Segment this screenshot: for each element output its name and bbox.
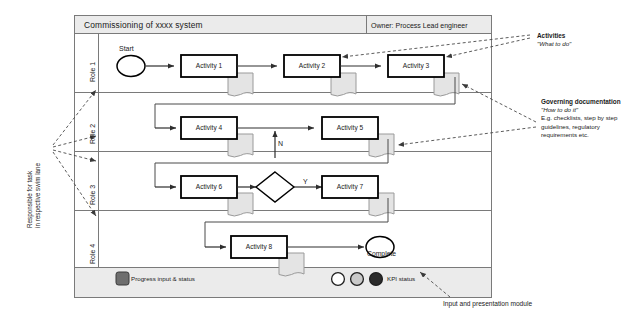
activity-4-label[interactable]: Activity 4 [181,124,237,131]
start-node-label: Start [119,45,134,53]
annotation-governing-documentation: Governing documentation "How to do it" E… [541,98,621,139]
annotation-governing-subtitle: "How to do it" [541,106,621,114]
activity-7-label[interactable]: Activity 7 [322,183,378,190]
annotation-governing-title: Governing documentation [541,98,621,106]
annotation-activities-title: Activities [537,32,571,40]
activity-5-label[interactable]: Activity 5 [322,124,378,131]
lane-label-role-2: Role 2 [89,124,97,144]
kpi-dot-grey [351,273,364,286]
lane-label-role-3: Role 3 [89,185,97,205]
annotation-governing-body-line-2: guidelines, regulatory [541,123,621,131]
lane-label-role-1: Role 1 [89,62,97,82]
legend-kpi-label: KPI status [387,276,415,283]
legend-progress-label: Progress input & status [131,276,195,283]
annotation-activities: Activities "What to do" [537,32,571,48]
owner-label: Owner: Process Lead engineer [371,22,468,30]
branch-label-yes: Y [303,178,308,186]
activity-6-label[interactable]: Activity 6 [181,183,237,190]
activity-1-label[interactable]: Activity 1 [181,62,237,69]
annotation-responsible-line-2: in respective swim lane [34,163,42,228]
kpi-dot-white [332,273,345,286]
annotation-input-presentation-module: Input and presentation module [443,300,532,307]
complete-node-label: Complete [367,250,396,258]
activity-2-label[interactable]: Activity 2 [284,62,340,69]
annotation-activities-subtitle: "What to do" [537,40,571,48]
annotation-responsible-for-task: Responsible for task in respective swim … [26,163,42,228]
annotation-governing-body-line-1: E.g. checklists, step by step [541,114,621,122]
annotation-responsible-line-1: Responsible for task [26,163,34,228]
kpi-dot-dark [370,273,383,286]
activity-3-label[interactable]: Activity 3 [388,62,444,69]
branch-label-no: N [278,140,283,148]
diagram-canvas: Commissioning of xxxx system Owner: Proc… [0,0,641,325]
annotation-governing-body-line-3: requirements etc. [541,131,621,139]
progress-swatch [116,272,129,285]
start-node [117,56,145,77]
activity-8-label[interactable]: Activity 8 [231,243,287,250]
page-title: Commissioning of xxxx system [84,21,203,30]
flowchart-vector [0,0,641,325]
lane-label-role-4: Role 4 [89,244,97,264]
